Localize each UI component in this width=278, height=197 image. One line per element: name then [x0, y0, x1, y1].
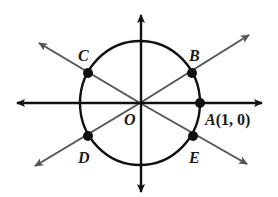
- label-a: A(1, 0): [204, 111, 250, 129]
- diagram-canvas: B C D E O A(1, 0): [0, 0, 278, 197]
- point-b: [187, 68, 197, 78]
- point-e: [188, 131, 198, 141]
- label-b: B: [188, 47, 200, 64]
- label-a-coordinates: (1, 0): [216, 111, 251, 129]
- point-d: [83, 131, 93, 141]
- label-d: D: [77, 149, 90, 166]
- point-a: [195, 98, 205, 108]
- unit-circle-diagram: B C D E O A(1, 0): [0, 0, 278, 197]
- label-origin: O: [124, 111, 136, 128]
- label-c: C: [78, 47, 89, 64]
- point-c: [83, 68, 93, 78]
- label-a-letter: A: [204, 111, 216, 128]
- label-e: E: [188, 149, 200, 166]
